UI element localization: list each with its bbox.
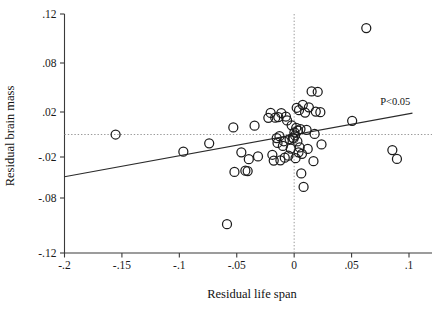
data-point bbox=[230, 167, 239, 176]
data-point bbox=[268, 150, 277, 159]
data-point bbox=[388, 146, 397, 155]
x-tick-label-4: 0 bbox=[291, 259, 297, 271]
y-tick-label-4: -.08 bbox=[38, 192, 56, 204]
tick-labels: .12.08.02-.02-.08-.12-.2-.15-.1-.050.05.… bbox=[38, 8, 413, 271]
data-point bbox=[205, 139, 214, 148]
data-point bbox=[392, 154, 401, 163]
x-axis-title: Residual life span bbox=[207, 287, 297, 301]
data-point bbox=[362, 24, 371, 33]
data-point bbox=[111, 130, 120, 139]
y-tick-label-5: -.12 bbox=[38, 247, 56, 259]
data-point bbox=[250, 121, 259, 130]
data-point bbox=[313, 87, 322, 96]
x-tick-label-1: -.15 bbox=[113, 259, 131, 271]
data-point bbox=[297, 169, 306, 178]
scatter-figure: .12.08.02-.02-.08-.12-.2-.15-.1-.050.05.… bbox=[0, 0, 443, 312]
data-point bbox=[253, 152, 262, 161]
data-point bbox=[299, 182, 308, 191]
y-tick-label-1: .08 bbox=[42, 57, 57, 69]
trend-line bbox=[65, 113, 413, 177]
x-tick-label-0: -.2 bbox=[58, 259, 71, 271]
y-tick-label-0: .12 bbox=[42, 8, 57, 20]
annotation-significance: P<0.05 bbox=[380, 96, 410, 107]
regression-line bbox=[65, 113, 413, 177]
y-axis-title: Residual brain mass bbox=[3, 86, 17, 187]
x-tick-label-5: .05 bbox=[344, 259, 359, 271]
data-points bbox=[111, 24, 401, 229]
axes bbox=[60, 14, 432, 258]
x-tick-label-3: -.05 bbox=[228, 259, 246, 271]
y-tick-label-2: .02 bbox=[42, 106, 57, 118]
x-tick-label-6: .1 bbox=[405, 259, 414, 271]
data-point bbox=[229, 123, 238, 132]
data-point bbox=[309, 157, 318, 166]
annotations: P<0.05 bbox=[380, 96, 410, 107]
data-point bbox=[237, 148, 246, 157]
data-point bbox=[244, 155, 253, 164]
data-point bbox=[317, 140, 326, 149]
chart-canvas: .12.08.02-.02-.08-.12-.2-.15-.1-.050.05.… bbox=[0, 0, 443, 312]
x-tick-label-2: -.1 bbox=[173, 259, 186, 271]
y-tick-label-3: -.02 bbox=[38, 151, 56, 163]
data-point bbox=[222, 220, 231, 229]
